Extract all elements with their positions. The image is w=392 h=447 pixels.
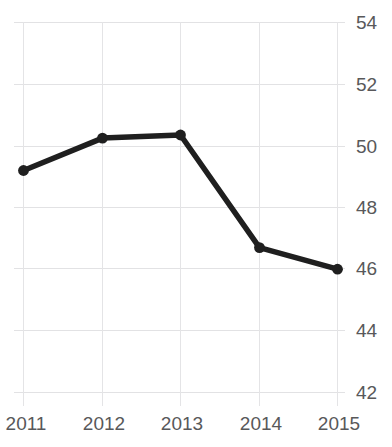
data-point-2011 bbox=[18, 165, 29, 176]
x-tick-label-2011: 2011 bbox=[6, 414, 47, 433]
y-tick-label-46: 46 bbox=[356, 259, 392, 278]
y-tick-label-42: 42 bbox=[356, 383, 392, 402]
x-tick-label-2013: 2013 bbox=[161, 414, 203, 433]
x-tick-label-2015: 2015 bbox=[318, 414, 360, 433]
horizontal-gridlines bbox=[14, 23, 345, 393]
y-tick-label-52: 52 bbox=[356, 75, 392, 94]
data-point-2014 bbox=[254, 242, 265, 253]
y-tick-label-44: 44 bbox=[356, 321, 392, 340]
line-chart: ························· 54 52 50 48 bbox=[0, 0, 392, 447]
vertical-gridlines bbox=[24, 22, 338, 406]
data-point-2012 bbox=[97, 133, 108, 144]
data-point-2013 bbox=[175, 130, 186, 141]
y-tick-label-50: 50 bbox=[356, 137, 392, 156]
y-tick-label-54: 54 bbox=[356, 13, 392, 32]
x-tick-label-2012: 2012 bbox=[83, 414, 125, 433]
data-point-2015 bbox=[332, 264, 343, 275]
chart-plot-area bbox=[0, 0, 392, 447]
x-tick-label-2014: 2014 bbox=[240, 414, 282, 433]
y-tick-label-48: 48 bbox=[356, 198, 392, 217]
